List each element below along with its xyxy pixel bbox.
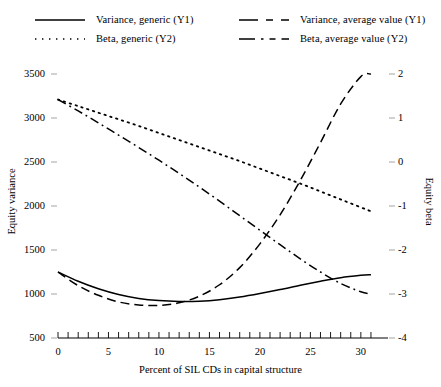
- y-axis-right-tick-label: -4: [398, 332, 428, 343]
- x-axis-tick-label: 15: [194, 346, 224, 357]
- series-line-2: [58, 74, 371, 306]
- series-line-3: [58, 100, 371, 294]
- x-axis-tick-label: 30: [346, 346, 376, 357]
- x-axis-tick-label: 20: [245, 346, 275, 357]
- y-axis-right-tick-label: 2: [398, 68, 428, 79]
- y-axis-left-tick-label: 1000: [5, 288, 45, 299]
- y-axis-left-tick-label: 2500: [5, 156, 45, 167]
- chart-root: Variance, generic (Y1) Beta, generic (Y2…: [0, 0, 441, 387]
- y-axis-left-tick-label: 3500: [5, 68, 45, 79]
- series-line-0: [58, 272, 371, 302]
- y-axis-left-tick-label: 500: [5, 332, 45, 343]
- plot-area: [0, 0, 441, 387]
- y-axis-left-tick-label: 1500: [5, 244, 45, 255]
- y-axis-right-tick-label: 0: [398, 156, 428, 167]
- x-axis-title: Percent of SIL CDs in capital structure: [0, 364, 441, 375]
- x-axis-tick-label: 25: [295, 346, 325, 357]
- y-axis-right-tick-label: -2: [398, 244, 428, 255]
- plot-svg: [0, 0, 441, 387]
- y-axis-right-tick-label: -3: [398, 288, 428, 299]
- x-axis-tick-label: 5: [93, 346, 123, 357]
- x-axis-tick-label: 0: [43, 346, 73, 357]
- y-axis-right-tick-label: -1: [398, 200, 428, 211]
- series-line-1: [58, 100, 371, 212]
- y-axis-left-tick-label: 3000: [5, 112, 45, 123]
- y-axis-right-tick-label: 1: [398, 112, 428, 123]
- x-axis-tick-label: 10: [144, 346, 174, 357]
- y-axis-left-tick-label: 2000: [5, 200, 45, 211]
